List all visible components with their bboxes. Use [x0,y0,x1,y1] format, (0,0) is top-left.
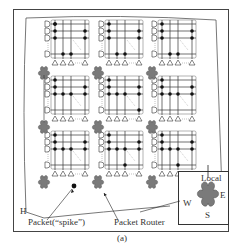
synapse-dot [123,147,127,151]
synapse-dot [160,36,164,40]
router-grid [38,67,157,189]
synapse-dot [61,92,65,96]
synapse-dot [168,147,172,151]
dendrite-input-icon [152,28,157,34]
neuron-output-icon [106,171,112,176]
dendrite-input-icon [99,84,104,90]
synapse-dot [53,85,57,89]
crossbar-tile [45,20,89,65]
synapse-dot [115,147,119,151]
crossbar-tile [99,76,143,121]
dendrite-input-icon [45,91,50,97]
crossbar-tile [152,20,196,65]
dendrite-input-icon [152,146,157,152]
dendrite-input-icon [45,28,50,34]
neuron-output-icon [167,60,173,65]
synapse-dot [160,22,164,26]
synapse-dot [53,133,57,137]
east-port-label: E [220,191,226,200]
synapse-dot [53,22,57,26]
synapse-dot [61,52,65,56]
dendrite-input-icon [152,162,157,168]
synapse-dot [107,92,111,96]
synapse-dot [160,147,164,151]
packet-router-icon [92,176,103,189]
neuron-output-icon [52,60,58,65]
dendrite-input-icon [152,91,157,97]
synapse-dot [190,29,194,33]
synapse-dot [137,92,141,96]
local-port-label: Local [201,174,222,183]
dendrite-input-icon [99,21,104,27]
synapse-dot [107,29,111,33]
neuron-output-icon [159,60,165,65]
inset-callout-line [140,201,180,212]
synapse-dot [83,29,87,33]
synapse-dot [123,52,127,56]
router-callout-line [104,193,118,220]
dendrite-input-icon [152,107,157,113]
synapse-dot [53,29,57,33]
crossbar-tile [45,131,89,176]
dendrite-input-icon [45,146,50,152]
synapse-dot [160,29,164,33]
dendrite-input-icon [45,51,50,57]
synapse-dot [176,52,180,56]
neuron-output-icon [159,171,165,176]
synapse-dot [69,52,73,56]
neuron-output-icon [52,116,58,121]
dendrite-input-icon [99,91,104,97]
synapse-dot [176,92,180,96]
packet-router-icon [146,176,157,189]
neuron-output-icon [114,171,120,176]
packet-spike-dot [72,184,77,189]
synapse-dot [83,36,87,40]
synapse-dot [176,163,180,167]
synapse-dot [115,52,119,56]
dendrite-input-icon [152,35,157,41]
synapse-dot [160,78,164,82]
neuron-output-icon [60,116,66,121]
synapse-dot [137,108,141,112]
dendrite-input-icon [99,28,104,34]
neuron-output-icon [60,171,66,176]
packet-router-icon [92,121,103,134]
neuron-output-icon [82,171,88,176]
crossbar-tile [45,76,89,121]
dendrite-input-icon [99,146,104,152]
dendrite-input-icon [45,107,50,113]
dendrite-input-icon [99,35,104,41]
synapse-dot [160,133,164,137]
neuron-output-icon [82,116,88,121]
south-port-label: S [205,211,210,220]
dendrite-input-icon [152,139,157,145]
dendrite-input-icon [152,21,157,27]
synapse-dot [53,147,57,151]
h-label: H [20,207,27,216]
neuron-output-icon [60,60,66,65]
neuron-output-icon [106,116,112,121]
synapse-dot [53,140,57,144]
dendrite-input-icon [45,139,50,145]
neuron-output-icon [189,116,195,121]
synapse-dot [69,147,73,151]
synapse-dot [107,22,111,26]
dendrite-input-icon [45,84,50,90]
neuron-output-icon [167,116,173,121]
synapse-dot [137,85,141,89]
synapse-dot [61,147,65,151]
synapse-dot [83,92,87,96]
packet-router-label: Packet Router [114,218,165,227]
synapse-dot [53,36,57,40]
synapse-dot [107,147,111,151]
synapse-dot [107,85,111,89]
dendrite-input-icon [99,107,104,113]
synapse-dot [53,78,57,82]
synapse-dot [107,140,111,144]
synapse-dot [83,147,87,151]
synapse-dot [115,92,119,96]
dendrite-input-icon [99,162,104,168]
neuron-output-icon [167,171,173,176]
crossbar-tile [152,131,196,176]
neuron-output-icon [159,116,165,121]
